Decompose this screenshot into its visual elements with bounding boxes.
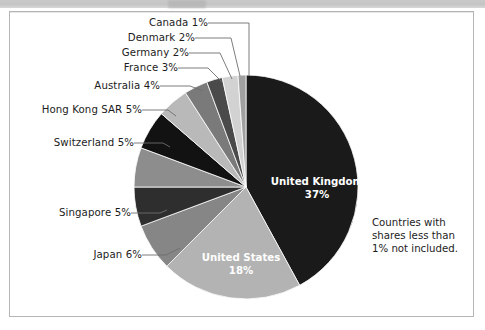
callout-label-canada: Canada 1% bbox=[98, 17, 208, 29]
callout-label-singapore: Singapore 5% bbox=[31, 207, 131, 219]
pie-chart bbox=[0, 0, 485, 330]
pie-chart-svg bbox=[0, 0, 485, 330]
callout-label-germany: Germany 2% bbox=[79, 47, 189, 59]
callout-label-hongkong: Hong Kong SAR 5% bbox=[22, 104, 142, 116]
callout-label-switzerland: Switzerland 5% bbox=[24, 137, 134, 149]
leader-line-denmark bbox=[195, 38, 240, 76]
callout-label-japan: Japan 6% bbox=[62, 249, 142, 261]
callout-label-france: France 3% bbox=[68, 62, 178, 74]
slice-label-united-states-value: 18% bbox=[186, 265, 296, 278]
slice-label-united-kingdom: United Kingdom 37% bbox=[262, 176, 372, 201]
chart-note-line-1: Countries with bbox=[372, 216, 476, 229]
chart-note: Countries with shares less than 1% not i… bbox=[372, 216, 476, 255]
leader-line-germany bbox=[189, 53, 232, 79]
callout-label-australia: Australia 4% bbox=[50, 80, 160, 92]
leader-line-canada bbox=[208, 23, 249, 76]
slice-label-united-kingdom-name: United Kingdom bbox=[262, 176, 372, 189]
slice-label-united-kingdom-value: 37% bbox=[262, 189, 372, 202]
callout-label-denmark: Denmark 2% bbox=[85, 32, 195, 44]
slice-label-united-states-name: United States bbox=[186, 252, 296, 265]
slice-label-united-states: United States 18% bbox=[186, 252, 296, 277]
chart-note-line-3: 1% not included. bbox=[372, 242, 476, 255]
chart-note-line-2: shares less than bbox=[372, 229, 476, 242]
